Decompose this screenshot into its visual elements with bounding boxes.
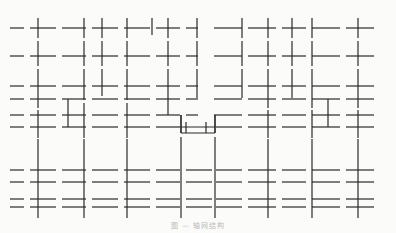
figure-caption: 图 — 轴网结构 xyxy=(0,220,396,230)
vertical-grid-lines xyxy=(38,18,358,218)
grid-diagram xyxy=(0,0,396,233)
horizontal-grid-lines xyxy=(10,28,374,207)
